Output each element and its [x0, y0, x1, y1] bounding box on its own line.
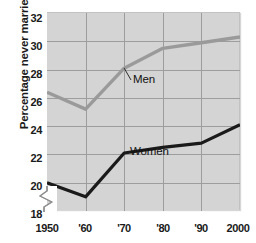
y-tick-label-32: 32 — [12, 13, 42, 23]
y-tick-label-20: 20 — [12, 181, 42, 191]
x-tick-label-1980: '80 — [143, 223, 183, 234]
y-tick-label-30: 30 — [12, 41, 42, 51]
chart-figure: Percentage never married 32 30 28 26 24 … — [0, 0, 256, 243]
y-tick-label-18: 18 — [12, 209, 42, 219]
series-line-women — [47, 125, 240, 197]
series-label-women: Women — [130, 145, 169, 157]
x-tick-label-2000: 2000 — [218, 223, 256, 234]
y-tick-label-24: 24 — [12, 125, 42, 135]
y-axis-break-icon — [39, 186, 57, 212]
x-tick-label-1970: '70 — [104, 223, 144, 234]
y-tick-label-22: 22 — [12, 153, 42, 163]
y-tick-label-26: 26 — [12, 97, 42, 107]
y-tick-label-28: 28 — [12, 69, 42, 79]
plot-canvas — [47, 13, 240, 211]
annotation-leader-lines — [124, 68, 131, 153]
x-tick-label-1960: '60 — [65, 223, 105, 234]
series-label-men: Men — [133, 73, 155, 85]
x-tick-label-1950: 1950 — [27, 223, 67, 234]
plot-area — [47, 12, 240, 210]
x-tick-label-1990: '90 — [181, 223, 221, 234]
